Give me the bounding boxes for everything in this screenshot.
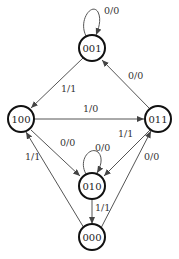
edge-label-100-to-011: 1/0: [83, 103, 98, 114]
edge-100-to-011: 1/0: [34, 103, 144, 119]
edge-011-to-001: 0/0: [102, 60, 149, 108]
state-label-000: 000: [82, 232, 101, 243]
state-node-100: 100: [8, 106, 34, 132]
edge-001-self: 0/0: [84, 5, 120, 36]
state-node-010: 010: [79, 173, 105, 199]
edge-label-001-to-100: 1/1: [61, 83, 76, 94]
edge-010-to-000: 1/1: [92, 199, 110, 224]
edge-label-010-to-000: 1/1: [95, 202, 110, 213]
state-label-011: 011: [148, 114, 167, 125]
edge-label-000-to-011: 0/0: [144, 151, 159, 162]
edge-label-000-to-100: 1/1: [25, 151, 40, 162]
state-node-000: 000: [79, 224, 105, 250]
state-label-100: 100: [11, 114, 30, 125]
state-label-010: 010: [82, 181, 101, 192]
edge-label-011-to-010: 1/1: [118, 128, 133, 139]
state-node-001: 001: [79, 35, 105, 61]
edge-label-001-self: 0/0: [104, 5, 119, 16]
state-label-001: 001: [82, 43, 101, 54]
edge-label-011-to-001: 0/0: [128, 70, 143, 81]
edge-001-to-100: 1/1: [31, 58, 83, 108]
state-node-011: 011: [145, 106, 171, 132]
state-diagram: 0/0 1/1 0/0 1/0 0/0 1/1 0/0 1/1 0/0 1/1: [0, 0, 179, 259]
edge-010-self: 0/0: [83, 142, 110, 174]
edge-label-100-to-010: 0/0: [60, 137, 75, 148]
edge-label-010-self: 0/0: [95, 142, 110, 153]
